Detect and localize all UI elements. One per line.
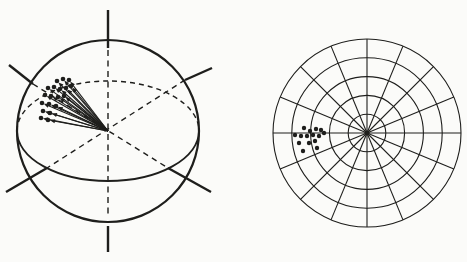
polar-point-2	[314, 127, 318, 131]
polar-point-8	[317, 134, 321, 138]
polar-spoke-2	[367, 133, 433, 199]
polar-point-13	[315, 146, 319, 150]
vector-dot-1	[61, 77, 66, 82]
figure-page	[0, 0, 467, 262]
polar-point-10	[297, 141, 301, 145]
polar-point-14	[301, 149, 305, 153]
polar-center-dot	[365, 131, 370, 136]
sphere-diagram	[6, 10, 212, 252]
vector-arrowhead-3	[50, 89, 55, 94]
sphere-and-polar-net-figure	[0, 0, 467, 262]
vector-dot-11	[62, 94, 67, 99]
diagonal-axis-solid-1	[185, 68, 212, 80]
polar-point-5	[299, 134, 303, 138]
vector-dot-7	[69, 84, 74, 89]
polar-point-9	[322, 131, 326, 135]
vector-dot-0	[55, 79, 60, 84]
vector-dot-14	[54, 104, 59, 109]
polar-point-4	[293, 133, 297, 137]
vector-dot-16	[48, 111, 53, 116]
vector-dot-2	[67, 78, 72, 83]
polar-spoke-10	[301, 67, 367, 133]
vector-dot-8	[43, 93, 48, 98]
vector-dot-6	[64, 86, 69, 91]
vector-dot-3	[46, 86, 51, 91]
vector-dot-4	[52, 85, 57, 90]
vector-dot-9	[49, 94, 54, 99]
vector-dot-15	[41, 109, 46, 114]
vector-dot-5	[58, 87, 63, 92]
vector-dot-18	[46, 118, 51, 123]
vector-arrowhead-16	[52, 113, 57, 117]
vector-dot-13	[47, 102, 52, 107]
diagonal-axis-solid-0	[9, 65, 33, 84]
polar-point-0	[302, 126, 306, 130]
polar-spoke-14	[367, 67, 433, 133]
vector-dot-10	[56, 95, 61, 100]
vector-dot-12	[40, 101, 45, 106]
polar-point-11	[307, 141, 311, 145]
polar-net-diagram	[273, 39, 461, 227]
polar-point-6	[305, 134, 309, 138]
polar-point-1	[308, 129, 312, 133]
polar-point-7	[311, 133, 315, 137]
vector-dot-17	[39, 116, 44, 121]
polar-point-12	[313, 139, 317, 143]
